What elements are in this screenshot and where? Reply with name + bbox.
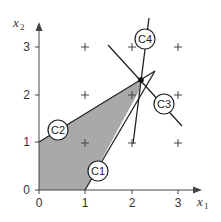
constraint-label-c1: C1 bbox=[88, 161, 108, 181]
y-tick-label: 2 bbox=[23, 88, 30, 102]
x-tick-label: 2 bbox=[129, 196, 136, 210]
svg-text:C3: C3 bbox=[157, 98, 171, 110]
x-axis-label-subscript: 1 bbox=[204, 201, 209, 211]
constraint-label-c4: C4 bbox=[135, 29, 155, 49]
y-tick-label: 0 bbox=[23, 183, 30, 197]
x-axis-arrow-icon bbox=[193, 187, 202, 194]
y-axis-arrow-icon bbox=[36, 22, 43, 31]
y-ticks bbox=[35, 47, 39, 190]
x-axis-label: x bbox=[196, 194, 203, 209]
x-tick-label: 3 bbox=[175, 196, 182, 210]
optimal-point bbox=[138, 77, 144, 83]
y-axis-label: x bbox=[12, 15, 19, 30]
x-tick-label: 1 bbox=[82, 196, 89, 210]
y-axis-label-subscript: 2 bbox=[20, 22, 25, 32]
constraint-label-c2: C2 bbox=[48, 120, 68, 140]
svg-text:C4: C4 bbox=[138, 33, 152, 45]
x-tick-label: 0 bbox=[36, 196, 43, 210]
svg-text:C2: C2 bbox=[51, 124, 65, 136]
constraint-label-c3: C3 bbox=[154, 94, 174, 114]
x-ticks bbox=[39, 190, 178, 194]
y-tick-label: 1 bbox=[23, 135, 30, 149]
svg-text:C1: C1 bbox=[91, 165, 105, 177]
feasible-region-diagram: 0 1 2 3 0 1 2 3 x 2 x 1 C2 C1 C3 C4 bbox=[0, 0, 221, 222]
y-tick-label: 3 bbox=[23, 40, 30, 54]
